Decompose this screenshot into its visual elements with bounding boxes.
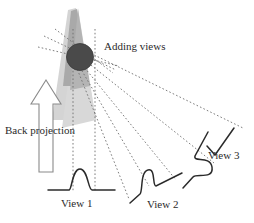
outgoing-ray-to-view2-right — [80, 62, 176, 180]
diagram-canvas — [0, 0, 254, 223]
outgoing-ray-to-view3-lower — [82, 58, 214, 163]
label-adding-views: Adding views — [104, 41, 165, 52]
outgoing-ray-group — [76, 50, 243, 199]
label-back-projection: Back projection — [5, 125, 75, 136]
label-view-2: View 2 — [147, 199, 178, 210]
label-view-3: View 3 — [208, 150, 239, 161]
reconstructed-object-circle — [67, 44, 94, 71]
label-view-1: View 1 — [61, 198, 92, 209]
view-1-profile — [48, 169, 115, 190]
outgoing-ray-to-view3-upper — [84, 50, 243, 128]
back-projection-diagram: Adding views Back projection View 1 View… — [0, 0, 254, 223]
